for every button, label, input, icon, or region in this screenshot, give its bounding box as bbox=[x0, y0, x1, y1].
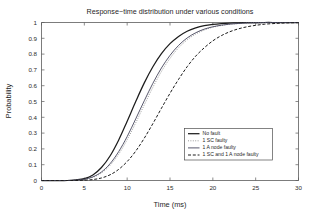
y-tick-label: 0.8 bbox=[28, 50, 37, 57]
legend-label: 1 SC and 1 A node faulty bbox=[203, 151, 260, 157]
x-tick-label: 20 bbox=[209, 184, 216, 191]
x-tick-label: 15 bbox=[167, 184, 174, 191]
chart-title: Response−time distribution under various… bbox=[87, 7, 254, 16]
response-time-cdf-chart: Response−time distribution under various… bbox=[0, 0, 314, 214]
legend-label: 1 SC faulty bbox=[203, 137, 228, 143]
legend[interactable]: No fault1 SC faulty1 A node faulty1 SC a… bbox=[185, 129, 273, 161]
y-tick-label: 0.1 bbox=[28, 161, 37, 168]
chart-figure: Response−time distribution under various… bbox=[0, 0, 314, 214]
x-axis-label: Time (ms) bbox=[154, 200, 187, 209]
y-tick-label: 0.2 bbox=[28, 145, 37, 152]
y-tick-label: 0.9 bbox=[28, 35, 37, 42]
x-tick-label: 0 bbox=[40, 184, 44, 191]
y-tick-label: 0.3 bbox=[28, 129, 37, 136]
y-tick-label: 0.6 bbox=[28, 82, 37, 89]
x-tick-label: 10 bbox=[124, 184, 131, 191]
y-tick-label: 1 bbox=[34, 19, 38, 26]
x-tick-label: 5 bbox=[83, 184, 87, 191]
x-axis-ticks: 051015202530 bbox=[40, 23, 303, 191]
y-tick-label: 0.7 bbox=[28, 66, 37, 73]
x-tick-label: 25 bbox=[252, 184, 259, 191]
chart-title-group: Response−time distribution under various… bbox=[87, 7, 254, 16]
y-tick-label: 0 bbox=[34, 177, 38, 184]
y-tick-label: 0.4 bbox=[28, 114, 37, 121]
x-tick-label: 30 bbox=[295, 184, 302, 191]
y-axis-label: Probability bbox=[4, 83, 13, 118]
legend-label: No fault bbox=[203, 130, 221, 136]
y-tick-label: 0.5 bbox=[28, 98, 37, 105]
legend-label: 1 A node faulty bbox=[203, 144, 237, 150]
